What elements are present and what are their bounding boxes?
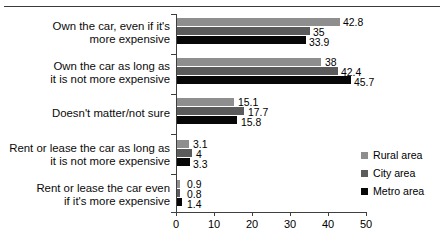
bar-rural — [177, 58, 321, 66]
x-axis-line — [176, 212, 366, 213]
category-label-line: Own the car, even if it's — [53, 20, 170, 32]
bar-rural — [177, 180, 180, 188]
category-label: Own the car, even if it's more expensive — [0, 20, 170, 46]
x-axis-label-20: 20 — [237, 218, 267, 230]
x-axis-tick — [214, 212, 215, 216]
legend-item-rural: Rural area — [361, 146, 443, 164]
category-label-line: Own the car as long as — [54, 60, 171, 72]
y-axis-tick — [171, 134, 176, 135]
bar-metro — [177, 116, 237, 124]
legend: Rural area City area Metro area — [361, 146, 443, 200]
category-label: Own the car as long as it is not more ex… — [0, 60, 170, 86]
x-axis-tick — [176, 212, 177, 216]
category-label-line: if it's more expensive — [64, 195, 170, 207]
bar-chart: Own the car, even if it's more expensive… — [0, 0, 444, 247]
bar-value: 1.4 — [187, 200, 201, 210]
top-divider — [4, 6, 440, 7]
legend-label-metro: Metro area — [373, 186, 424, 197]
bar-metro — [177, 76, 351, 84]
category-label: Rent or lease the car even if it's more … — [0, 182, 170, 208]
category-label-line: Rent or lease the car even — [36, 182, 170, 194]
legend-swatch-rural-icon — [361, 152, 368, 159]
bar-metro — [177, 36, 306, 44]
category-label: Rent or lease the car as long as it is n… — [0, 142, 170, 168]
y-axis-tick — [171, 14, 176, 15]
legend-item-city: City area — [361, 164, 443, 182]
x-axis-tick — [328, 212, 329, 216]
category-label-line: it is not more expensive — [50, 73, 170, 85]
category-label-line: Rent or lease the car as long as — [9, 142, 170, 154]
y-axis-tick — [171, 94, 176, 95]
x-axis-label-0: 0 — [161, 218, 191, 230]
category-label: Doesn't matter/not sure — [0, 107, 170, 120]
y-axis-tick — [171, 174, 176, 175]
bar-city — [177, 107, 244, 115]
x-axis-label-50: 50 — [351, 218, 381, 230]
x-axis-label-10: 10 — [199, 218, 229, 230]
category-label-line: it is not more expensive — [50, 155, 170, 167]
bar-city — [177, 189, 180, 197]
bar-value: 33.9 — [309, 38, 329, 48]
bar-rural — [177, 98, 234, 106]
legend-swatch-city-icon — [361, 170, 368, 177]
bar-rural — [177, 140, 189, 148]
x-axis-label-40: 40 — [313, 218, 343, 230]
legend-swatch-metro-icon — [361, 188, 368, 195]
x-axis-tick — [252, 212, 253, 216]
legend-item-metro: Metro area — [361, 182, 443, 200]
x-axis-label-30: 30 — [275, 218, 305, 230]
category-label-line: more expensive — [90, 33, 170, 45]
bar-rural — [177, 18, 340, 26]
y-axis-tick — [171, 54, 176, 55]
category-label-line: Doesn't matter/not sure — [52, 107, 170, 119]
bar-value: 3.3 — [193, 160, 207, 170]
bar-metro — [177, 198, 182, 206]
bar-metro — [177, 158, 190, 166]
x-axis-tick — [366, 212, 367, 216]
legend-label-rural: Rural area — [373, 150, 422, 161]
x-axis-tick — [290, 212, 291, 216]
bar-value: 42.8 — [343, 18, 363, 28]
bar-value: 45.7 — [354, 78, 374, 88]
bar-city — [177, 27, 310, 35]
bar-value: 38 — [325, 58, 337, 68]
bar-city — [177, 149, 192, 157]
legend-label-city: City area — [373, 168, 415, 179]
bar-value: 15.8 — [241, 118, 261, 128]
bar-city — [177, 67, 338, 75]
